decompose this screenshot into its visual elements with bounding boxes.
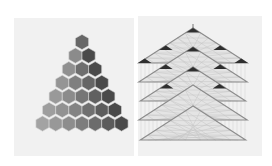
- stacked-triangles-figure: [0, 0, 272, 166]
